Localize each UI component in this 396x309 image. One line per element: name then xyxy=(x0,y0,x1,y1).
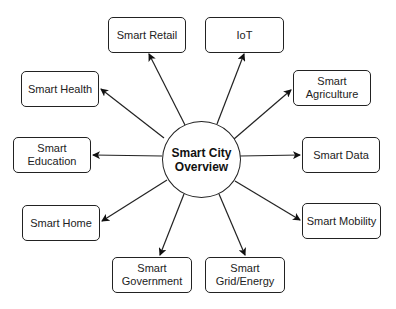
node-smart-government: Smart Government xyxy=(112,257,192,293)
node-label: IoT xyxy=(237,29,253,42)
arrow-to-mobility xyxy=(235,181,300,220)
node-label-line1: Smart xyxy=(306,75,359,88)
arrow-to-data xyxy=(240,155,300,156)
node-label: Smart Mobility xyxy=(307,215,377,228)
node-label-line2: Government xyxy=(122,275,183,288)
hub-label-line1: Smart City xyxy=(171,146,231,160)
node-smart-agriculture: Smart Agriculture xyxy=(293,70,371,106)
hub-label-line2: Overview xyxy=(171,160,231,174)
node-label-line1: Smart xyxy=(216,262,275,275)
node-label-line1: Smart xyxy=(122,262,183,275)
node-smart-home: Smart Home xyxy=(22,205,100,241)
node-label-line1: Smart xyxy=(28,142,77,155)
node-label-line2: Grid/Energy xyxy=(216,275,275,288)
node-smart-retail: Smart Retail xyxy=(108,17,186,53)
node-label: Smart Retail xyxy=(117,29,178,42)
arrow-to-iot xyxy=(217,54,244,124)
node-iot: IoT xyxy=(205,17,284,53)
arrow-to-government xyxy=(160,194,184,255)
node-smart-mobility: Smart Mobility xyxy=(302,203,381,239)
node-label: Smart Home xyxy=(30,217,92,230)
arrow-to-grid xyxy=(219,194,245,255)
arrow-to-agriculture xyxy=(234,90,291,139)
node-smart-education: Smart Education xyxy=(13,137,91,173)
arrow-to-home xyxy=(102,180,167,221)
arrow-to-retail xyxy=(149,54,185,125)
node-smart-health: Smart Health xyxy=(21,71,99,107)
node-label: Smart Health xyxy=(28,83,92,96)
node-smart-data: Smart Data xyxy=(302,137,380,173)
arrow-to-health xyxy=(101,89,164,138)
node-label-line2: Agriculture xyxy=(306,88,359,101)
hub-smart-city-overview: Smart City Overview xyxy=(162,121,241,198)
node-smart-grid-energy: Smart Grid/Energy xyxy=(205,257,285,293)
node-label-line2: Education xyxy=(28,155,77,168)
arrow-to-education xyxy=(93,155,162,156)
node-label: Smart Data xyxy=(313,149,369,162)
